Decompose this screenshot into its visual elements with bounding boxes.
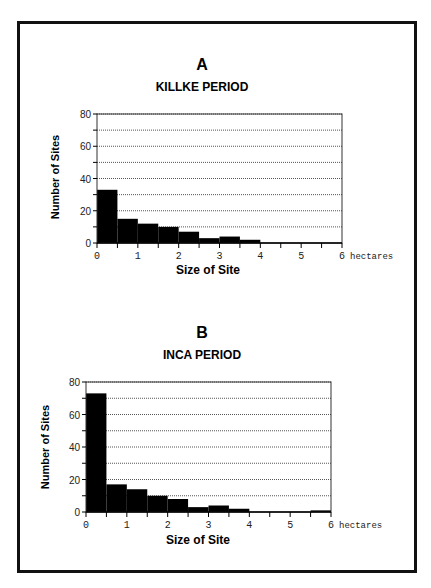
chart-b-x-unit-label: hectares [339,521,382,531]
chart-b-plot: 0204060800123456hectares [0,0,431,588]
chart-b-x-tick-label: 2 [165,520,171,531]
chart-b-x-tick-label: 0 [83,520,89,531]
chart-b-bar [147,496,167,512]
chart-b-x-tick-label: 5 [287,520,293,531]
chart-b-x-tick-label: 4 [246,520,252,531]
chart-b-x-tick-label: 3 [205,520,211,531]
chart-b-y-tick-label: 0 [74,507,80,518]
chart-b-bar [106,484,126,512]
chart-b-y-tick-label: 80 [69,377,81,388]
chart-b-bar [127,489,147,512]
chart-b-y-tick-label: 40 [69,442,81,453]
chart-b-x-tick-label: 1 [124,520,130,531]
chart-b-x-tick-label: 6 [328,520,334,531]
chart-b-y-tick-label: 20 [69,475,81,486]
chart-b-bar [209,506,229,513]
chart-b-bar [86,393,106,512]
chart-b-bar [168,499,188,512]
chart-b-y-tick-label: 60 [69,410,81,421]
